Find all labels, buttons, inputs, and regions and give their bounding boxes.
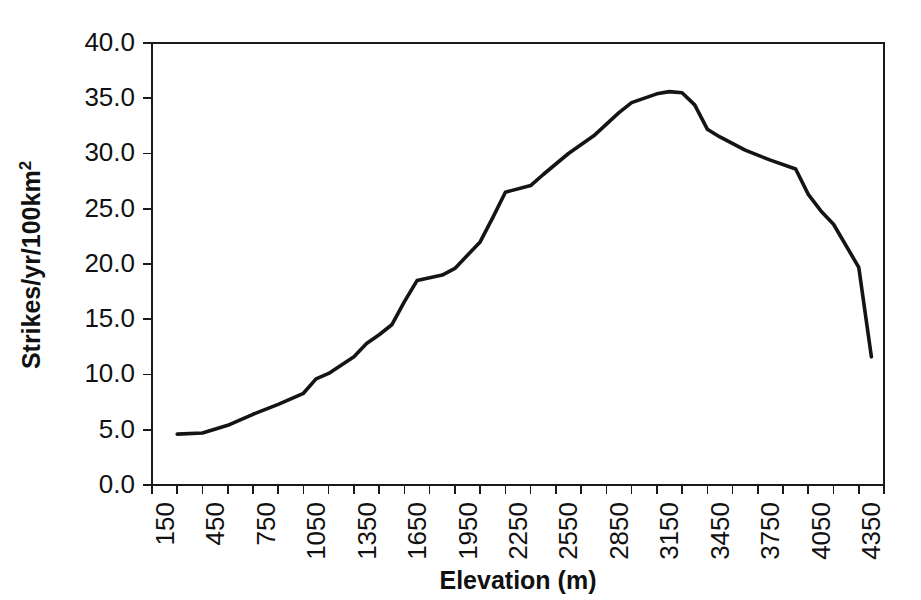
plot-frame — [152, 43, 884, 485]
x-tick-label: 2850 — [604, 502, 634, 560]
y-axis-ticks — [143, 43, 152, 485]
y-tick-label: 5.0 — [99, 414, 135, 444]
x-tick-label: 1950 — [453, 502, 483, 560]
y-axis-title: Strikes/yr/100km2 — [16, 161, 45, 369]
x-tick-label: 450 — [200, 502, 230, 545]
x-tick-label: 4050 — [806, 502, 836, 560]
y-tick-label: 40.0 — [84, 27, 135, 57]
y-tick-label: 20.0 — [84, 248, 135, 278]
y-tick-label: 0.0 — [99, 469, 135, 499]
x-axis-tick-labels: 1504507501050135016501950225025502850315… — [150, 502, 887, 560]
y-tick-label: 30.0 — [84, 137, 135, 167]
x-tick-label: 1350 — [352, 502, 382, 560]
chart-page: 0.05.010.015.020.025.030.035.040.0 15045… — [0, 0, 921, 600]
x-axis-ticks — [152, 485, 884, 494]
x-tick-label: 3450 — [705, 502, 735, 560]
series-line-lightning-strike-density — [177, 92, 871, 435]
x-tick-label: 750 — [251, 502, 281, 545]
y-axis-tick-labels: 0.05.010.015.020.025.030.035.040.0 — [84, 27, 135, 499]
axis-frame-path — [152, 43, 884, 485]
y-tick-label: 35.0 — [84, 82, 135, 112]
x-tick-label: 2250 — [503, 502, 533, 560]
y-tick-label: 10.0 — [84, 358, 135, 388]
x-tick-label: 1650 — [402, 502, 432, 560]
x-tick-label: 1050 — [301, 502, 331, 560]
y-tick-label: 15.0 — [84, 303, 135, 333]
y-axis-title-group: Strikes/yr/100km2 — [16, 161, 45, 369]
x-tick-label: 2550 — [553, 502, 583, 560]
x-tick-label: 150 — [150, 502, 180, 545]
x-tick-label: 3150 — [654, 502, 684, 560]
x-axis-title: Elevation (m) — [440, 566, 597, 594]
x-tick-label: 3750 — [755, 502, 785, 560]
data-series-group — [177, 92, 871, 435]
y-tick-label: 25.0 — [84, 193, 135, 223]
x-tick-label: 4350 — [856, 502, 886, 560]
line-chart: 0.05.010.015.020.025.030.035.040.0 15045… — [0, 0, 921, 600]
